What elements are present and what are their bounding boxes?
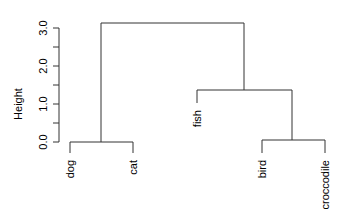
y-tick-labels: 0.0 1.0 2.0 3.0 — [37, 20, 49, 149]
y-axis-label: Height — [12, 88, 24, 120]
y-axis — [53, 28, 59, 142]
leaf-labels: dog cat fish bird croccodile — [64, 110, 331, 210]
leaf-label-dog: dog — [64, 160, 76, 178]
y-tick-3: 3.0 — [37, 20, 49, 35]
y-tick-2: 2.0 — [37, 58, 49, 73]
dendrogram-branches — [70, 23, 325, 153]
dendrogram-chart: 0.0 1.0 2.0 3.0 Height dog cat fish bird… — [0, 0, 341, 210]
leaf-label-fish: fish — [191, 110, 203, 127]
y-tick-0: 0.0 — [37, 134, 49, 149]
leaf-label-cat: cat — [127, 160, 139, 175]
leaf-label-bird: bird — [256, 160, 268, 178]
leaf-label-croccodile: croccodile — [319, 160, 331, 210]
y-tick-1: 1.0 — [37, 96, 49, 111]
